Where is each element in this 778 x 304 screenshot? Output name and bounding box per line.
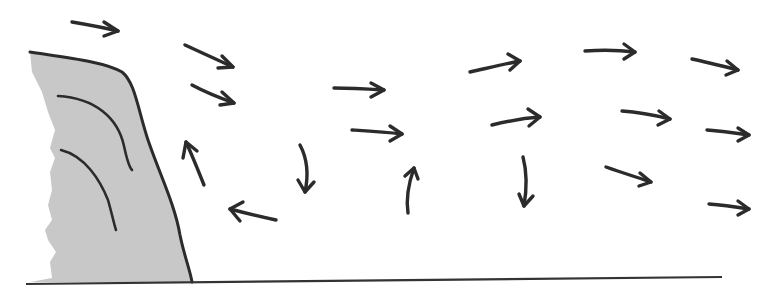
- arrow-icon: [492, 109, 540, 126]
- arrow-icon: [692, 59, 738, 75]
- arrow-icon: [72, 22, 118, 36]
- arrow-icon: [352, 126, 402, 141]
- airflow-arrows: [72, 22, 749, 221]
- arrow-icon: [192, 85, 234, 105]
- cliff-fill: [30, 52, 192, 282]
- arrow-icon: [709, 201, 749, 215]
- arrow-icon: [606, 167, 651, 186]
- arrow-icon: [405, 168, 418, 213]
- arrow-icon: [185, 45, 233, 68]
- arrow-icon: [622, 111, 670, 125]
- arrow-icon: [298, 145, 314, 192]
- arrow-icon: [519, 157, 533, 206]
- arrow-icon: [470, 54, 520, 72]
- diagram-canvas: [0, 0, 778, 304]
- arrow-icon: [183, 142, 204, 185]
- arrow-icon: [230, 202, 276, 221]
- arrow-icon: [334, 83, 384, 97]
- arrow-icon: [585, 44, 635, 59]
- arrow-icon: [707, 128, 749, 141]
- wind-flow-diagram: [0, 0, 778, 304]
- cliff-obstacle: [30, 52, 192, 282]
